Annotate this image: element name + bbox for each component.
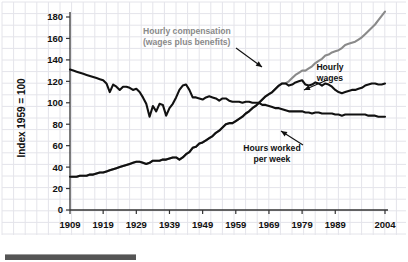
y-axis-tick-label: 60 (52, 140, 63, 151)
y-axis-tick-label: 80 (52, 119, 63, 130)
y-axis-tick-label: 20 (52, 183, 63, 194)
y-axis-tick-label: 160 (47, 33, 63, 44)
annotation-label-hours-worked-per-week: per week (254, 154, 291, 164)
y-axis-title: Index 1959 = 100 (16, 78, 27, 158)
index-line-chart: 0204060801001201401601801909191919291939… (0, 0, 408, 262)
y-axis-tick-label: 100 (47, 97, 63, 108)
annotation-label-hourly-wages: Hourly (316, 62, 343, 72)
x-axis-tick-label: 2004 (374, 219, 396, 230)
x-axis-tick-label: 1959 (225, 219, 246, 230)
y-axis-tick-label: 40 (52, 162, 63, 173)
y-axis-tick-label: 120 (47, 76, 63, 87)
annotation-label-hours-worked-per-week: Hours worked (243, 143, 300, 153)
y-axis-tick-label: 0 (58, 204, 63, 215)
x-axis-tick-label: 1939 (159, 219, 180, 230)
x-axis-tick-label: 1929 (126, 219, 147, 230)
annotation-label-hourly-compensation: Hourly compensation (143, 26, 231, 36)
y-axis-tick-label: 180 (47, 11, 63, 22)
x-axis-tick-label: 1989 (325, 219, 346, 230)
x-axis-tick-label: 1979 (292, 219, 313, 230)
x-axis-tick-label: 1949 (192, 219, 213, 230)
x-axis-tick-label: 1919 (93, 219, 114, 230)
x-axis-tick-label: 1969 (258, 219, 279, 230)
x-axis-tick-label: 1909 (59, 219, 80, 230)
annotation-label-hourly-wages: wages (316, 73, 343, 83)
horizontal-scrollbar[interactable] (5, 254, 136, 260)
y-axis-tick-label: 140 (47, 54, 63, 65)
chart-figure: 0204060801001201401601801909191919291939… (0, 0, 408, 262)
annotation-label-hourly-compensation: (wages plus benefits) (143, 37, 231, 47)
